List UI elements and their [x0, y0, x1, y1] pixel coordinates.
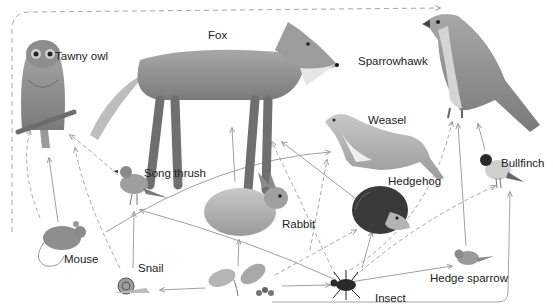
arrow-plants-to-insect	[282, 285, 330, 286]
arrow-plants-to-hedgehog	[275, 230, 356, 275]
arrow-snail-to-owl	[75, 148, 120, 268]
arrow-rabbit-to-fox	[232, 128, 235, 182]
arrow-hedge-sparrow-to-sparrowhawk	[458, 124, 466, 246]
arrow-bullfinch-to-sparrowhawk	[478, 124, 485, 150]
label-fox: Fox	[208, 30, 227, 42]
label-insect: Insect	[375, 293, 406, 305]
label-hedgehog: Hedgehog	[388, 176, 441, 188]
arrow-plants-to-rabbit	[238, 240, 239, 266]
label-sparrowhawk: Sparrowhawk	[358, 56, 428, 68]
hedgehog-illustration	[352, 186, 410, 234]
label-rabbit: Rabbit	[282, 219, 315, 231]
label-bullfinch: Bullfinch	[501, 158, 544, 170]
arrow-thrush-to-owl	[70, 135, 118, 175]
arrow-mouse-to-owl-dashed	[27, 130, 40, 218]
hedge-sparrow-illustration	[455, 250, 495, 266]
label-tawny-owl: Tawny owl	[55, 51, 108, 63]
arrow-mouse-to-owl	[49, 158, 58, 222]
label-hedge-sparrow: Hedge sparrow	[430, 273, 508, 285]
label-song-thrush: Song thrush	[144, 168, 206, 180]
sparrowhawk-illustration	[422, 14, 540, 132]
arrow-plants-to-snail	[160, 288, 205, 290]
arrow-plants-to-weasel	[310, 160, 327, 250]
arrow-insect-to-hedgehog	[362, 232, 372, 268]
label-mouse: Mouse	[64, 254, 99, 266]
plants-illustration	[206, 259, 274, 296]
arrow-snail-to-thrush	[133, 212, 134, 268]
arrow-insect-to-fox	[272, 142, 335, 275]
label-snail: Snail	[138, 263, 164, 275]
food-web-diagram: Tawny owl Fox Sparrowhawk Weasel Song th…	[0, 0, 553, 306]
fox-illustration	[90, 22, 339, 190]
snail-illustration	[114, 278, 150, 294]
label-weasel: Weasel	[368, 115, 406, 127]
